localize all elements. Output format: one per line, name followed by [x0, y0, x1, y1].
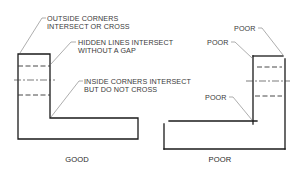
good-object-outline — [18, 54, 138, 139]
poor-figure: POOR POOR POOR POOR — [164, 24, 290, 164]
leader-outside-corners — [20, 18, 46, 53]
poor-caption: POOR — [209, 155, 232, 164]
annotation-poor-top-left: POOR — [207, 38, 229, 47]
annotation-poor-top-right: POOR — [234, 24, 256, 33]
leader-hidden-lines — [51, 42, 76, 64]
annotation-inside-corners-line2: BUT DO NOT CROSS — [84, 85, 157, 94]
annotation-poor-inside-corner: POOR — [205, 93, 227, 102]
good-caption: GOOD — [65, 155, 89, 164]
diagram-canvas: OUTSIDE CORNERS INTERSECT OR CROSS HIDDE… — [0, 0, 299, 171]
leader-poor-top-right — [258, 28, 283, 55]
annotation-outside-corners-line2: INTERSECT OR CROSS — [47, 22, 130, 31]
leader-poor-top-left — [231, 42, 252, 58]
leader-poor-inside-corner — [229, 97, 252, 120]
leader-inside-corners — [51, 81, 83, 117]
annotation-hidden-lines-line2: WITHOUT A GAP — [78, 46, 136, 55]
good-figure: OUTSIDE CORNERS INTERSECT OR CROSS HIDDE… — [14, 14, 192, 164]
